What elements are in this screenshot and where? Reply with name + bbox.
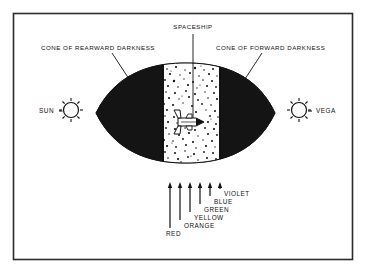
label-orange: ORANGE bbox=[184, 222, 215, 229]
label-spaceship: SPACESHIP bbox=[173, 23, 212, 30]
label-green: GREEN bbox=[204, 206, 229, 213]
label-cone-forward: CONE OF FORWARD DARKNESS bbox=[216, 44, 325, 51]
label-sun: SUN bbox=[39, 107, 54, 114]
diagram-figure: SPACESHIP CONE OF REARWARD DARKNESS CONE… bbox=[0, 0, 370, 275]
label-vega: VEGA bbox=[316, 107, 336, 114]
label-cone-rearward: CONE OF REARWARD DARKNESS bbox=[41, 44, 155, 51]
label-violet: VIOLET bbox=[224, 190, 250, 197]
label-red: RED bbox=[166, 230, 181, 237]
label-yellow: YELLOW bbox=[194, 214, 224, 221]
label-blue: BLUE bbox=[214, 198, 233, 205]
